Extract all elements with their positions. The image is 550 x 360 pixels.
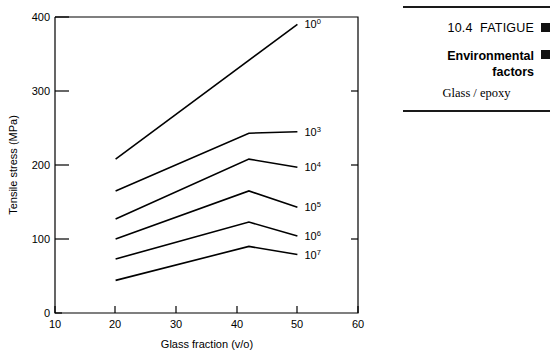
sidebar-subsection-heading: Environmental factors: [403, 48, 550, 80]
data-curve: [116, 132, 298, 191]
section-title: FATIGUE: [480, 21, 534, 35]
data-curve: [116, 222, 298, 259]
curve-label: 107: [304, 248, 320, 261]
x-axis-ticks: [55, 306, 358, 313]
y-tick-labels: 0 100 200 300 400: [32, 11, 50, 319]
curve-label: 104: [304, 160, 320, 173]
square-marker-icon: [541, 50, 550, 59]
y-axis-title: Tensile stress (MPa): [7, 115, 19, 215]
chart-figure: 10 20 30 40 50 60 0 100 200 300 400 Glas…: [0, 0, 395, 360]
x-tick-label: 10: [49, 318, 61, 330]
x-tick-label: 60: [352, 318, 364, 330]
x-tick-label: 50: [291, 318, 303, 330]
curve-label: 100: [304, 17, 320, 30]
section-number: 10.4: [448, 21, 473, 35]
curve-label: 103: [304, 125, 320, 138]
data-curves: [116, 24, 298, 280]
curve-label: 106: [304, 229, 320, 242]
y-tick-label: 200: [32, 159, 50, 171]
sidebar-rule-bottom: [403, 110, 550, 112]
data-curve: [116, 191, 298, 239]
x-tick-labels: 10 20 30 40 50 60: [49, 318, 364, 330]
y-tick-label: 300: [32, 85, 50, 97]
y-tick-label: 0: [44, 307, 50, 319]
y-tick-label: 400: [32, 11, 50, 23]
y-axis-ticks: [55, 17, 69, 313]
data-curve: [116, 24, 298, 159]
figure-page: 10 20 30 40 50 60 0 100 200 300 400 Glas…: [0, 0, 550, 360]
y-tick-label: 100: [32, 233, 50, 245]
curve-label: 105: [304, 200, 320, 213]
chart-svg: 10 20 30 40 50 60 0 100 200 300 400 Glas…: [0, 0, 395, 360]
sidebar-rule-top: [403, 6, 550, 8]
x-tick-label: 30: [170, 318, 182, 330]
curve-end-labels: 100103104105106107: [304, 17, 320, 260]
x-tick-label: 40: [231, 318, 243, 330]
data-curve: [116, 159, 298, 219]
x-tick-label: 20: [109, 318, 121, 330]
square-marker-icon: [541, 23, 550, 32]
section-heading-text: 10.4 FATIGUE: [448, 21, 534, 35]
y-axis-ticks-right: [351, 91, 358, 239]
sidebar: 10.4 FATIGUE Environmental factors Glass…: [403, 0, 550, 360]
x-axis-title: Glass fraction (v/o): [161, 338, 253, 350]
sidebar-section-heading: 10.4 FATIGUE: [403, 21, 550, 35]
subsection-title: Environmental factors: [428, 48, 534, 80]
sidebar-caption: Glass / epoxy: [403, 86, 550, 101]
